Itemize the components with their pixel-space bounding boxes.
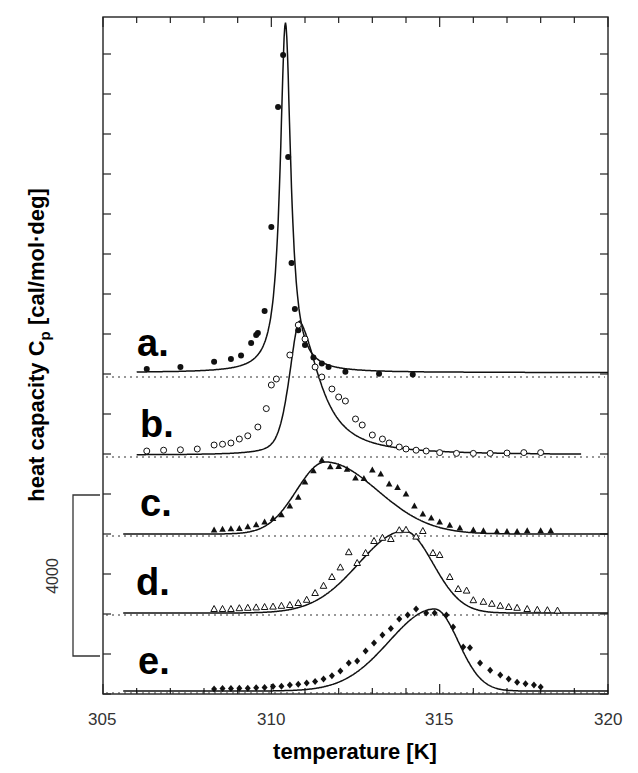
x-axis-title: temperature [K] xyxy=(273,739,437,764)
x-tick-label-305: 305 xyxy=(88,710,116,729)
panel-label-c: c. xyxy=(140,482,172,524)
y-axis-title-subscript: p xyxy=(36,331,53,340)
baselines-dotted xyxy=(106,377,605,693)
fit-curve-c xyxy=(123,462,608,534)
y-axis-title: heat capacity Cp [cal/mol·deg] xyxy=(24,188,53,502)
x-tick-label-310: 310 xyxy=(257,710,285,729)
y-axis-title-main: heat capacity C xyxy=(24,340,49,502)
axis-ticks xyxy=(103,17,608,694)
fit-curve-b xyxy=(137,321,581,455)
fit-curve-d xyxy=(123,531,608,613)
panel-label-b: b. xyxy=(140,403,174,445)
panel-label-d: d. xyxy=(136,561,170,603)
panel-label-e: e. xyxy=(138,640,170,682)
plot-frame xyxy=(103,17,608,694)
fit-curves xyxy=(123,23,608,691)
panel-label-a: a. xyxy=(137,322,169,364)
dsc-heat-capacity-chart: a. b. c. d. e. 305 310 315 320 temperatu… xyxy=(0,0,638,773)
fit-curve-a xyxy=(137,23,608,373)
x-tick-label-315: 315 xyxy=(425,710,453,729)
scale-bar-bracket xyxy=(73,495,100,656)
y-axis-title-unit: [cal/mol·deg] xyxy=(24,188,49,331)
scale-bar-label: 4000 xyxy=(44,558,61,594)
scale-bar-label-group: 4000 xyxy=(44,558,61,594)
svg-text:heat capacity Cp [cal/mol·deg]: heat capacity Cp [cal/mol·deg] xyxy=(24,188,53,502)
x-tick-label-320: 320 xyxy=(594,710,622,729)
